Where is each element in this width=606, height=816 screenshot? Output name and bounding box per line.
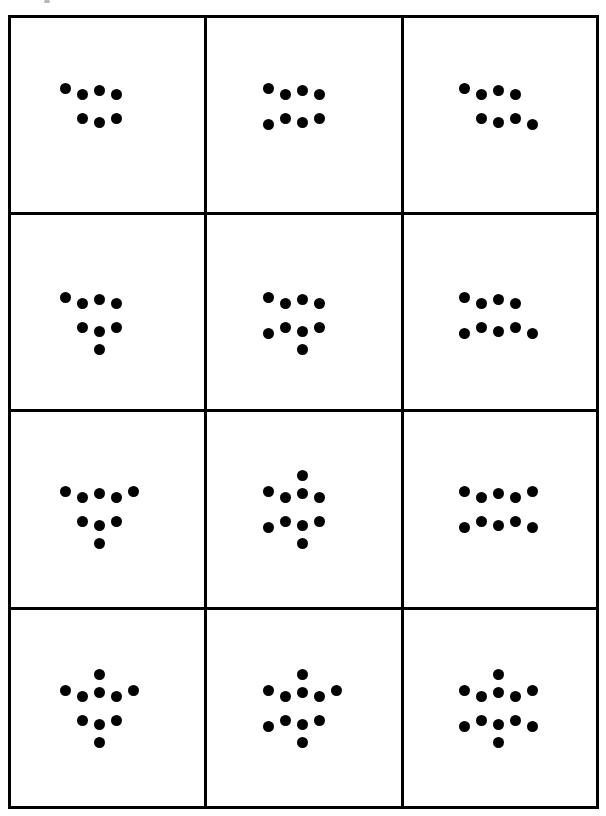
pattern-cell-r1c3: [404, 18, 596, 215]
dot: [111, 516, 122, 527]
dot: [94, 719, 105, 730]
dot: [297, 737, 308, 748]
dot: [280, 691, 291, 702]
dot: [297, 344, 308, 355]
dot: [493, 737, 504, 748]
dot: [314, 516, 325, 527]
dot: [476, 113, 487, 124]
dot: [297, 669, 308, 680]
dot: [280, 715, 291, 726]
dot: [77, 298, 88, 309]
dot: [94, 520, 105, 531]
dot: [263, 328, 274, 339]
dot: [111, 113, 122, 124]
pattern-cell-r3c2: [207, 412, 404, 610]
dot: [280, 113, 291, 124]
dot: [111, 89, 122, 100]
dot: [510, 113, 521, 124]
dot: [94, 326, 105, 337]
dot: [263, 486, 274, 497]
dot: [476, 715, 487, 726]
dot: [314, 298, 325, 309]
dot: [459, 328, 470, 339]
dot: [476, 691, 487, 702]
dot: [263, 522, 274, 533]
pattern-cell-r1c2: [207, 18, 404, 215]
dot: [459, 83, 470, 94]
dot: [77, 322, 88, 333]
dot: [527, 486, 538, 497]
dot: [527, 522, 538, 533]
dot: [493, 669, 504, 680]
dot: [527, 119, 538, 130]
dot: [94, 687, 105, 698]
dot: [60, 685, 71, 696]
dot: [314, 113, 325, 124]
dot: [493, 719, 504, 730]
dot: [314, 89, 325, 100]
dot: [77, 492, 88, 503]
dot-pattern-grid: [8, 15, 599, 809]
dot: [94, 538, 105, 549]
dot: [314, 715, 325, 726]
dot: [476, 516, 487, 527]
dot: [280, 492, 291, 503]
dot: [297, 470, 308, 481]
dot: [331, 685, 342, 696]
dot: [510, 322, 521, 333]
dot: [297, 488, 308, 499]
pattern-cell-r4c1: [11, 610, 207, 806]
pattern-cell-r2c1: [11, 215, 207, 412]
pattern-cell-r4c2: [207, 610, 404, 806]
dot: [60, 83, 71, 94]
pattern-cell-r1c1: [11, 18, 207, 215]
dot: [263, 119, 274, 130]
dot: [280, 89, 291, 100]
dot: [527, 685, 538, 696]
dot: [94, 294, 105, 305]
dot: [94, 117, 105, 128]
dot: [510, 516, 521, 527]
dot: [263, 685, 274, 696]
dot: [297, 538, 308, 549]
dot: [263, 721, 274, 732]
dot: [60, 292, 71, 303]
dot: [314, 492, 325, 503]
pattern-cell-r2c3: [404, 215, 596, 412]
dot: [111, 322, 122, 333]
dot: [94, 737, 105, 748]
dot: [280, 322, 291, 333]
dot: [297, 687, 308, 698]
dot: [459, 721, 470, 732]
dot: [77, 715, 88, 726]
dot: [94, 669, 105, 680]
dot: [77, 113, 88, 124]
dot: [493, 117, 504, 128]
pattern-cell-r3c3: [404, 412, 596, 610]
dot: [459, 522, 470, 533]
dot: [510, 715, 521, 726]
dot: [111, 691, 122, 702]
dot: [527, 328, 538, 339]
dot: [476, 492, 487, 503]
dot: [128, 685, 139, 696]
dot: [128, 486, 139, 497]
scan-mark: [44, 0, 50, 3]
dot: [493, 520, 504, 531]
dot: [493, 687, 504, 698]
dot: [263, 83, 274, 94]
dot: [297, 294, 308, 305]
dot: [77, 89, 88, 100]
dot: [263, 292, 274, 303]
dot: [510, 492, 521, 503]
pattern-cell-r2c2: [207, 215, 404, 412]
dot: [280, 298, 291, 309]
dot: [476, 89, 487, 100]
dot: [297, 117, 308, 128]
dot: [297, 85, 308, 96]
dot: [314, 691, 325, 702]
dot: [297, 719, 308, 730]
dot: [476, 298, 487, 309]
dot: [459, 685, 470, 696]
dot: [94, 85, 105, 96]
